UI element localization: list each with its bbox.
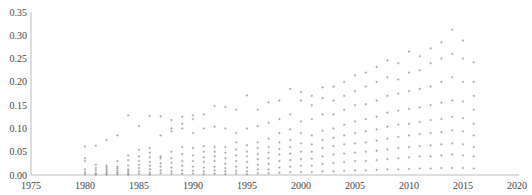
data-point [213, 160, 215, 162]
data-point [246, 94, 248, 96]
data-point [127, 159, 129, 161]
data-point [181, 153, 183, 155]
data-point [138, 167, 140, 169]
data-point [192, 170, 194, 172]
data-point [429, 119, 431, 121]
data-point [375, 139, 377, 141]
data-point [375, 81, 377, 83]
data-point [354, 160, 356, 162]
data-point [419, 155, 421, 157]
data-point [332, 170, 334, 172]
data-point [429, 85, 431, 87]
data-point [149, 115, 151, 117]
data-point [278, 153, 280, 155]
data-point [473, 155, 475, 157]
data-point [375, 99, 377, 101]
data-point [213, 169, 215, 171]
data-point [473, 61, 475, 63]
data-point [278, 132, 280, 134]
data-point [397, 168, 399, 170]
data-point [451, 116, 453, 118]
data-point [397, 157, 399, 159]
data-point [138, 149, 140, 151]
data-point [289, 113, 291, 115]
data-point [343, 95, 345, 97]
data-point [267, 101, 269, 103]
data-point [289, 165, 291, 167]
data-point [257, 141, 259, 143]
scatter-points [84, 28, 475, 175]
data-point [375, 116, 377, 118]
x-tick-label: 1995 [237, 180, 257, 191]
data-point [192, 160, 194, 162]
data-point [343, 81, 345, 83]
data-point [311, 134, 313, 136]
data-point [375, 169, 377, 171]
data-point [386, 95, 388, 97]
data-point [278, 160, 280, 162]
data-point [365, 151, 367, 153]
data-point [311, 164, 313, 166]
data-point [429, 132, 431, 134]
data-point [473, 167, 475, 169]
data-point [170, 130, 172, 132]
data-point [408, 146, 410, 148]
data-point [386, 137, 388, 139]
data-point [462, 130, 464, 132]
data-point [332, 127, 334, 129]
data-point [451, 129, 453, 131]
data-point [289, 139, 291, 141]
data-point [300, 91, 302, 93]
data-point [332, 162, 334, 164]
data-point [84, 157, 86, 159]
y-tick-label: 0.20 [10, 76, 28, 87]
data-point [311, 95, 313, 97]
data-point [440, 154, 442, 156]
data-point [267, 157, 269, 159]
data-point [257, 153, 259, 155]
data-point [192, 165, 194, 167]
data-point [300, 151, 302, 153]
data-point [246, 127, 248, 129]
data-point [419, 167, 421, 169]
data-point [84, 160, 86, 162]
data-point [278, 171, 280, 173]
data-point [224, 146, 226, 148]
data-point [246, 166, 248, 168]
data-point [332, 153, 334, 155]
data-point [138, 155, 140, 157]
data-point [159, 169, 161, 171]
data-point [386, 111, 388, 113]
data-point [440, 102, 442, 104]
data-point [321, 97, 323, 99]
data-point [451, 167, 453, 169]
data-point [365, 169, 367, 171]
data-point [397, 62, 399, 64]
data-point [170, 127, 172, 129]
data-point [84, 145, 86, 147]
data-point [257, 168, 259, 170]
data-point [224, 127, 226, 129]
data-point [462, 143, 464, 145]
data-point [213, 151, 215, 153]
y-tick-label: 0.35 [10, 7, 28, 18]
data-point [149, 147, 151, 149]
data-point [354, 104, 356, 106]
data-point [397, 136, 399, 138]
data-point [354, 74, 356, 76]
data-point [397, 147, 399, 149]
data-point [149, 156, 151, 158]
data-point [170, 162, 172, 164]
data-point [343, 170, 345, 172]
data-point [235, 141, 237, 143]
data-point [181, 169, 183, 171]
data-point [365, 71, 367, 73]
data-point [473, 109, 475, 111]
data-point [138, 172, 140, 174]
data-point [440, 143, 442, 145]
data-point [235, 154, 237, 156]
data-point [159, 115, 161, 117]
data-point [192, 172, 194, 174]
data-point [95, 169, 97, 171]
data-point [386, 158, 388, 160]
